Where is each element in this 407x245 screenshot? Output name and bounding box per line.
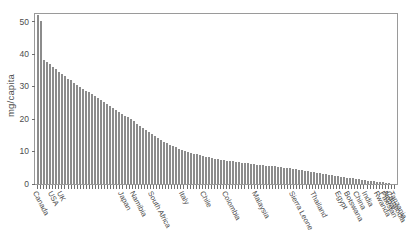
x-axis-tick-mark xyxy=(68,185,69,189)
x-axis-tick-mark xyxy=(37,185,38,189)
bar xyxy=(88,92,90,184)
bar xyxy=(280,167,282,184)
bar xyxy=(265,166,267,184)
x-axis-tick-mark xyxy=(180,185,181,189)
bar xyxy=(328,175,330,184)
bar xyxy=(337,176,339,184)
bar xyxy=(304,171,306,184)
x-axis-tick-mark xyxy=(284,185,285,189)
bar xyxy=(97,98,99,184)
x-axis-tick-mark xyxy=(244,185,245,189)
x-axis-tick-mark xyxy=(373,185,374,189)
bar xyxy=(217,159,219,184)
bar xyxy=(205,157,207,184)
x-axis-tick-mark xyxy=(119,185,120,189)
bar xyxy=(220,160,222,184)
bar xyxy=(271,166,273,184)
bar xyxy=(178,149,180,184)
bar xyxy=(343,177,345,184)
bar xyxy=(55,69,57,184)
bar xyxy=(40,21,42,184)
bar xyxy=(238,162,240,184)
x-axis-tick-mark xyxy=(254,185,255,189)
bar xyxy=(298,170,300,184)
bar xyxy=(259,165,261,184)
bar-series xyxy=(35,14,397,184)
y-axis-tick-label: 0 xyxy=(24,179,29,188)
x-axis-tick-mark xyxy=(211,185,212,189)
x-axis-tick-mark xyxy=(64,185,65,189)
bar xyxy=(286,168,288,184)
x-axis-tick-mark xyxy=(330,185,331,189)
y-axis-tick-mark xyxy=(32,21,35,22)
bar xyxy=(187,152,189,184)
x-axis-tick-mark xyxy=(196,185,197,189)
x-axis-tick-labels: CanadaUSAUKJapanNamibiaSouth AfricaItaly… xyxy=(34,190,407,245)
bar xyxy=(163,142,165,185)
x-axis-tick-mark xyxy=(275,185,276,189)
bar xyxy=(148,132,150,184)
bar xyxy=(325,174,327,184)
x-axis-tick-mark xyxy=(190,185,191,189)
bar xyxy=(139,126,141,184)
x-axis-tick-mark xyxy=(232,185,233,189)
y-axis-tick-mark xyxy=(32,54,35,55)
y-axis-tick-label: 20 xyxy=(20,114,29,123)
bar xyxy=(349,178,351,184)
x-axis-tick-mark xyxy=(342,185,343,189)
bar xyxy=(124,116,126,184)
bar xyxy=(388,183,390,184)
x-axis-tick-mark xyxy=(177,185,178,189)
bar xyxy=(310,172,312,184)
y-axis-title: mg/capita xyxy=(0,0,20,190)
x-axis-tick-mark xyxy=(312,185,313,189)
y-axis-title-text: mg/capita xyxy=(5,74,16,117)
x-axis-tick-mark xyxy=(129,185,130,189)
x-axis-tick-mark xyxy=(174,185,175,189)
bar xyxy=(193,154,195,184)
y-axis-tick-label: 10 xyxy=(20,147,29,156)
y-axis-tick-mark xyxy=(32,86,35,87)
x-axis-tick-mark xyxy=(327,185,328,189)
bar xyxy=(319,173,321,184)
x-axis-tick-label: Italy xyxy=(177,190,190,206)
x-axis-tick-mark xyxy=(159,185,160,189)
x-axis-tick-mark xyxy=(272,185,273,189)
bar xyxy=(241,163,243,184)
x-axis-tick-mark xyxy=(339,185,340,189)
x-axis-tick-mark xyxy=(263,185,264,189)
bar xyxy=(79,87,81,184)
x-axis-tick-mark xyxy=(248,185,249,189)
x-axis-tick-mark xyxy=(360,185,361,189)
x-axis-tick-mark xyxy=(141,185,142,189)
x-axis-tick-mark xyxy=(208,185,209,189)
x-axis-tick-mark xyxy=(46,185,47,189)
x-axis-tick-mark xyxy=(113,185,114,189)
x-axis-tick-mark xyxy=(98,185,99,189)
y-axis-tick-mark xyxy=(32,151,35,152)
bar xyxy=(91,94,93,184)
x-axis-tick-mark xyxy=(235,185,236,189)
bar xyxy=(172,146,174,184)
y-axis-tick-label: 30 xyxy=(20,82,29,91)
x-axis-tick-mark xyxy=(281,185,282,189)
x-axis-tick-mark xyxy=(89,185,90,189)
bar xyxy=(313,172,315,184)
bar xyxy=(142,128,144,184)
x-axis-tick-mark xyxy=(382,185,383,189)
bar xyxy=(67,79,69,184)
bar xyxy=(211,158,213,184)
bar xyxy=(73,83,75,184)
x-axis-tick-mark xyxy=(95,185,96,189)
bar xyxy=(70,80,72,184)
x-axis-tick-mark xyxy=(238,185,239,189)
bar xyxy=(250,164,252,184)
bar xyxy=(49,64,51,184)
x-axis-tick-mark xyxy=(116,185,117,189)
x-axis-tick-mark xyxy=(351,185,352,189)
x-axis-tick-mark xyxy=(144,185,145,189)
x-axis-tick-mark xyxy=(101,185,102,189)
bar xyxy=(181,150,183,184)
x-axis-tick-label: Colombia xyxy=(220,190,241,221)
x-axis-tick-mark xyxy=(302,185,303,189)
